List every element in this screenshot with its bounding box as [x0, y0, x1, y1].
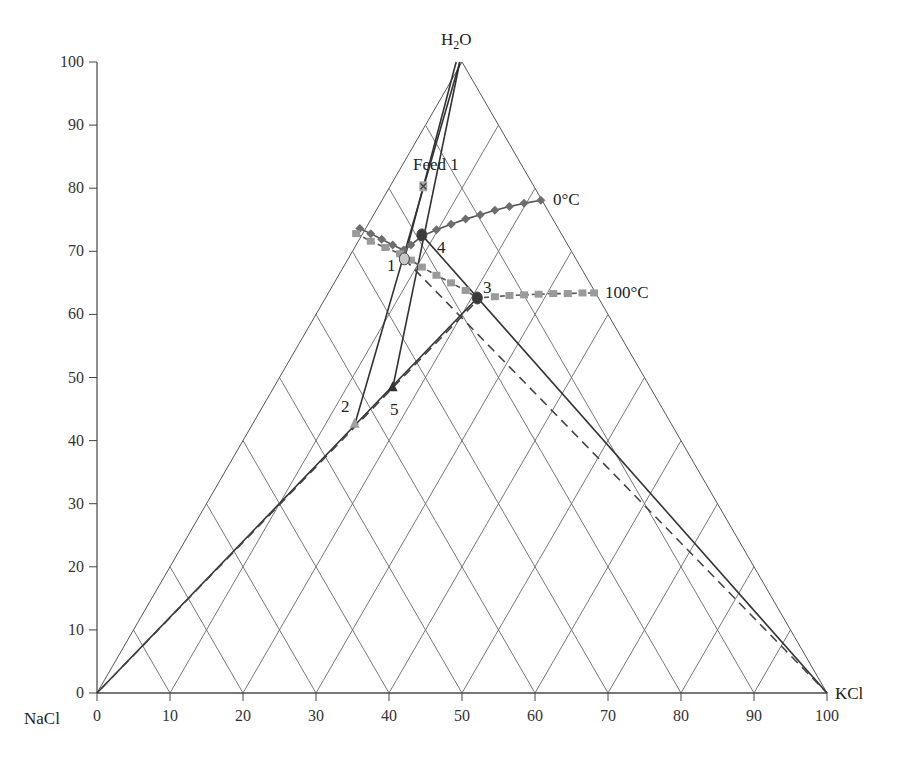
- x-tick-label: 60: [527, 707, 543, 724]
- x-tick-label: 0: [93, 707, 101, 724]
- x-tick-label: 20: [235, 707, 251, 724]
- kcl-label: KCl: [835, 684, 864, 703]
- square-marker: [549, 290, 557, 297]
- h2o-label: H2O: [441, 30, 472, 52]
- grid-line: [170, 125, 499, 693]
- x-tick-label: 10: [162, 707, 178, 724]
- y-tick-label: 10: [68, 621, 84, 638]
- point-4-marker: [417, 229, 427, 241]
- diamond-marker: [447, 220, 456, 229]
- grid-line: [134, 630, 171, 693]
- ternary-grid: [97, 62, 827, 693]
- y-tick-label: 100: [60, 53, 84, 70]
- diamond-marker: [490, 206, 499, 215]
- isotherm-100c-label: 100°C: [605, 283, 649, 302]
- square-marker: [352, 230, 360, 237]
- y-tick-label: 20: [68, 558, 84, 575]
- square-marker: [505, 292, 513, 299]
- axes: 1009080706050403020100010203040506070809…: [60, 53, 839, 724]
- diamond-marker: [505, 202, 514, 211]
- grid-line: [353, 251, 609, 693]
- square-marker: [564, 290, 572, 297]
- point-3-label: 3: [483, 278, 492, 297]
- x-tick-label: 70: [600, 707, 616, 724]
- tie-lines: [97, 62, 827, 693]
- point-1-marker: [399, 253, 409, 265]
- x-tick-label: 30: [308, 707, 324, 724]
- square-marker: [432, 272, 440, 279]
- tie-line: [422, 235, 827, 693]
- point-3-marker: [472, 292, 482, 304]
- x-tick-label: 80: [673, 707, 689, 724]
- y-tick-label: 80: [68, 179, 84, 196]
- diamond-marker: [476, 210, 485, 219]
- x-tick-label: 90: [746, 707, 762, 724]
- y-tick-label: 40: [68, 432, 84, 449]
- grid-line: [426, 125, 755, 693]
- grid-line: [316, 251, 572, 693]
- square-marker: [590, 289, 598, 296]
- isotherm-0c-label: 0°C: [553, 190, 580, 209]
- grid-line: [608, 504, 718, 693]
- grid-line: [462, 378, 645, 694]
- nacl-label: NaCl: [24, 709, 60, 728]
- feed-label: Feed 1: [413, 155, 459, 174]
- point-2-label: 2: [341, 397, 350, 416]
- grid-line: [207, 504, 317, 693]
- triangle-outline: [97, 62, 827, 693]
- y-tick-label: 50: [68, 369, 84, 386]
- y-tick-label: 70: [68, 242, 84, 259]
- diamond-marker: [388, 240, 397, 249]
- diamond-marker: [520, 199, 529, 208]
- y-tick-label: 60: [68, 305, 84, 322]
- x-tick-label: 40: [381, 707, 397, 724]
- point-5-label: 5: [390, 400, 399, 419]
- point-1-label: 1: [387, 256, 396, 275]
- y-tick-label: 0: [76, 684, 84, 701]
- ternary-chart: 1009080706050403020100010203040506070809…: [0, 0, 913, 767]
- diamond-marker: [366, 229, 375, 238]
- tie-line: [404, 259, 827, 693]
- diamond-marker: [461, 215, 470, 224]
- x-tick-label: 100: [815, 707, 839, 724]
- y-tick-label: 30: [68, 495, 84, 512]
- square-marker: [535, 291, 543, 298]
- grid-line: [280, 378, 463, 694]
- point-4-label: 4: [437, 238, 446, 257]
- square-marker: [367, 238, 375, 245]
- square-marker: [520, 291, 528, 298]
- square-marker: [418, 264, 426, 271]
- x-tick-label: 50: [454, 707, 470, 724]
- grid-line: [754, 630, 791, 693]
- diamond-marker: [377, 235, 386, 244]
- y-tick-label: 90: [68, 116, 84, 133]
- square-marker: [462, 287, 470, 294]
- square-marker: [381, 244, 389, 251]
- square-marker: [491, 293, 499, 300]
- square-marker: [447, 279, 455, 286]
- tie-line: [97, 305, 473, 693]
- square-marker: [578, 289, 586, 296]
